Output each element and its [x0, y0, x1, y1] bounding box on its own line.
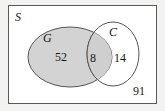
- set-g-label: G: [43, 32, 52, 44]
- universal-set-label: S: [15, 11, 21, 23]
- region-count-g-only: 52: [55, 51, 67, 63]
- venn-diagram-figure: S G C 52 8 14 91: [0, 0, 165, 111]
- region-count-intersection: 8: [90, 52, 96, 64]
- set-c-label: C: [109, 26, 117, 38]
- region-count-outside: 91: [133, 85, 145, 97]
- region-count-c-only: 14: [114, 52, 126, 64]
